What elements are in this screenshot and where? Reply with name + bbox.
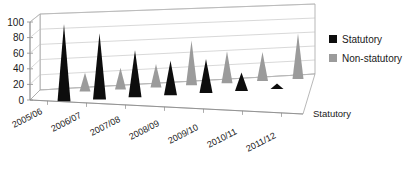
y-tick-label-60: 60 — [13, 48, 25, 59]
chart-legend: Statutory Non-statutory — [329, 34, 402, 64]
legend-label-non-statutory: Non-statutory — [342, 53, 402, 64]
y-tick-label-20: 20 — [13, 79, 25, 90]
legend-label-statutory: Statutory — [342, 34, 382, 45]
y-tick-label-100: 100 — [7, 17, 24, 28]
legend-swatch-statutory — [329, 35, 337, 43]
x-tick-label-2006-07: 2006/07 — [49, 110, 83, 134]
x-tick-label-2007-08: 2007/08 — [88, 114, 122, 138]
y-tick-label-40: 40 — [13, 63, 25, 74]
chart-container: 100 80 60 40 20 0 — [0, 0, 414, 172]
z-axis-label: Statutory — [313, 108, 351, 119]
chart-3d-frame — [30, 4, 315, 114]
x-tick-label-2009-10: 2009/10 — [166, 122, 200, 146]
cone-chart-3d: 100 80 60 40 20 0 — [0, 0, 414, 172]
y-tick-label-80: 80 — [13, 32, 25, 43]
x-tick-label-2010-11: 2010/11 — [205, 126, 238, 149]
y-tick-label-0: 0 — [18, 95, 24, 106]
left-depth-panel — [30, 14, 40, 100]
x-tick-label-2011-12: 2011/12 — [244, 130, 277, 153]
legend-swatch-non-statutory — [329, 54, 337, 62]
x-tick-label-2008-09: 2008/09 — [127, 118, 161, 142]
x-tick-label-2005-06: 2005/06 — [10, 106, 44, 130]
